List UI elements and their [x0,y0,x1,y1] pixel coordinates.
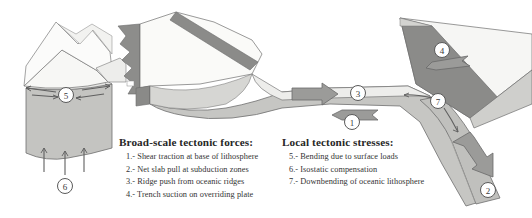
callout-6-label: 6 [63,182,68,192]
callout-7[interactable]: 7 [431,94,446,109]
legend-local-stresses: Local tectonic stresses: 5.- Bending due… [282,136,442,189]
callout-7-label: 7 [436,97,441,107]
callout-1-label: 1 [350,118,355,128]
mountain-range-left [24,22,126,159]
legend-stresses-title: Local tectonic stresses: [282,136,442,148]
callout-6[interactable]: 6 [58,179,73,194]
legend-stresses-item-6: 6.- Isostatic compensation [282,164,442,177]
legend-broad-scale-forces: Broad-scale tectonic forces: 1.- Shear t… [119,136,271,201]
tectonic-forces-figure: 1 2 3 4 5 6 7 [0,0,532,218]
legend-stresses-item-5: 5.- Bending due to surface loads [282,151,442,164]
callout-2-label: 2 [486,186,491,196]
callout-2[interactable]: 2 [481,183,496,198]
ridge-axis-marker [127,81,134,86]
callout-4[interactable]: 4 [435,43,450,58]
callout-5[interactable]: 5 [59,88,74,103]
legend-forces-title: Broad-scale tectonic forces: [119,136,271,148]
legend-forces-list: 1.- Shear traction at base of lithospher… [119,151,271,201]
legend-forces-item-3: 3.- Ridge push from oceanic ridges [119,176,271,189]
ridge-right-flank-crust [140,12,262,88]
callout-3[interactable]: 3 [351,86,366,101]
legend-forces-item-1: 1.- Shear traction at base of lithospher… [119,151,271,164]
callout-3-label: 3 [356,89,361,99]
callout-4-label: 4 [440,46,445,56]
legend-stresses-item-7: 7.- Downbending of oceanic lithosphere [282,176,442,189]
ridge-axis-valley [136,86,150,106]
legend-forces-item-2: 2.- Net slab pull at subduction zones [119,164,271,177]
legend-forces-item-4: 4.- Trench suction on overriding plate [119,189,271,202]
legend-stresses-list: 5.- Bending due to surface loads 6.- Iso… [282,151,442,189]
oceanic-crust-surface [252,74,430,100]
callout-5-label: 5 [64,91,69,101]
callout-1[interactable]: 1 [345,115,360,130]
